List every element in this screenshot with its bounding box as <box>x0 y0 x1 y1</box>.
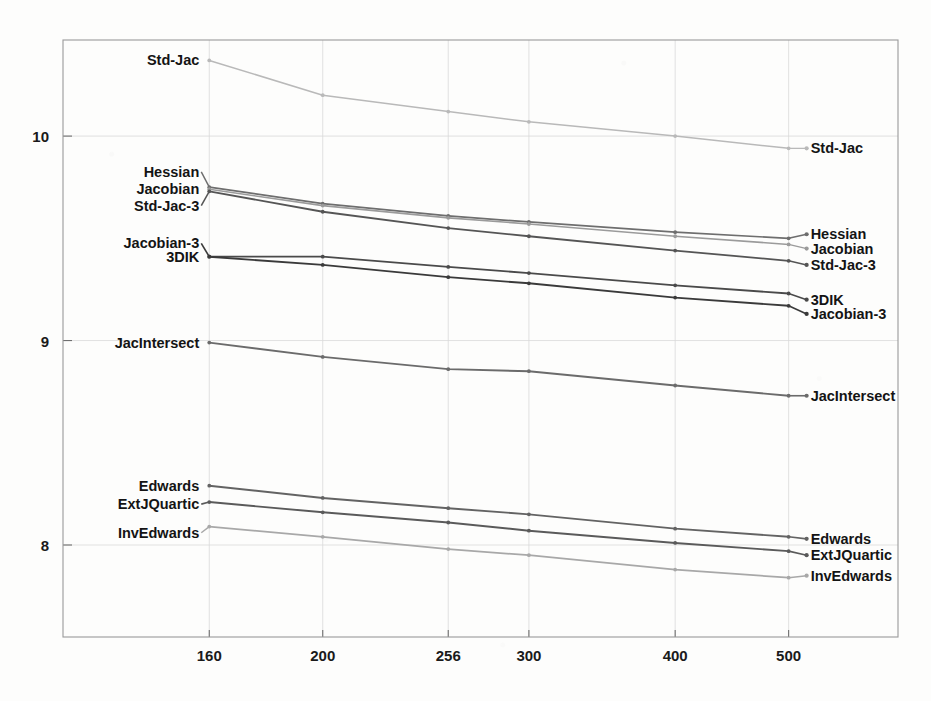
chart-canvas: 160200256300400500 1098 Std-JacHessianJa… <box>0 0 931 701</box>
series-line <box>209 189 788 244</box>
data-point-marker <box>446 110 450 114</box>
line-chart: 160200256300400500 1098 Std-JacHessianJa… <box>0 0 931 701</box>
data-point-marker <box>673 568 677 572</box>
data-point-marker <box>446 367 450 371</box>
x-tick-label: 200 <box>310 647 335 664</box>
series-line <box>209 502 788 551</box>
data-point-marker <box>321 255 325 259</box>
data-point-marker <box>207 484 211 488</box>
series-label-left: Std-Jac <box>147 52 199 68</box>
data-point-marker <box>321 355 325 359</box>
x-tick-label: 160 <box>197 647 222 664</box>
data-point-marker <box>527 234 531 238</box>
data-point-marker <box>446 521 450 525</box>
y-tick-label: 8 <box>41 537 49 554</box>
series-label-right: Jacobian-3 <box>811 306 887 322</box>
series-label-left: Hessian <box>144 164 200 180</box>
right-series-labels: Std-JacHessianJacobianStd-Jac-33DIKJacob… <box>811 140 896 583</box>
data-point-marker <box>446 216 450 220</box>
data-point-marker <box>673 134 677 138</box>
series-label-right: Jacobian <box>811 241 874 257</box>
series-label-right: Std-Jac <box>811 140 863 156</box>
series-label-left: Jacobian-3 <box>124 235 200 251</box>
y-axis-tick-labels: 1098 <box>32 128 49 554</box>
data-point-marker <box>527 553 531 557</box>
series-label-left: InvEdwards <box>118 525 199 541</box>
data-point-marker <box>673 527 677 531</box>
series-curves <box>209 60 788 577</box>
data-point-marker <box>321 93 325 97</box>
data-point-marker <box>527 222 531 226</box>
data-point-marker <box>673 384 677 388</box>
series-label-left: JacIntersect <box>115 335 200 351</box>
data-point-marker <box>527 281 531 285</box>
data-point-marker <box>527 120 531 124</box>
data-point-marker <box>446 265 450 269</box>
data-point-marker <box>446 275 450 279</box>
x-tick-label: 500 <box>776 647 801 664</box>
left-series-labels: Std-JacHessianJacobianStd-Jac-33DIKJacob… <box>115 52 200 540</box>
series-line <box>209 486 788 537</box>
series-label-right: ExtJQuartic <box>811 547 892 563</box>
data-point-marker <box>673 283 677 287</box>
series-line <box>209 187 788 238</box>
data-point-marker <box>321 210 325 214</box>
series-line <box>209 527 788 578</box>
data-point-marker <box>527 369 531 373</box>
y-tick-label: 9 <box>41 333 49 350</box>
data-point-marker <box>321 510 325 514</box>
series-label-left: ExtJQuartic <box>118 496 199 512</box>
data-point-marker <box>673 296 677 300</box>
data-point-marker <box>446 506 450 510</box>
data-point-marker <box>321 535 325 539</box>
data-point-marker <box>673 541 677 545</box>
series-label-left: Jacobian <box>136 181 199 197</box>
series-label-right: JacIntersect <box>811 388 896 404</box>
data-point-marker <box>446 547 450 551</box>
series-label-left: Std-Jac-3 <box>134 198 199 214</box>
series-line <box>209 257 788 306</box>
data-point-marker <box>321 496 325 500</box>
data-point-marker <box>527 271 531 275</box>
x-tick-label: 256 <box>436 647 461 664</box>
series-markers <box>207 59 808 580</box>
data-point-marker <box>673 249 677 253</box>
x-tick-label: 400 <box>663 647 688 664</box>
data-point-marker <box>321 263 325 267</box>
data-point-marker <box>207 341 211 345</box>
series-label-right: Edwards <box>811 531 871 547</box>
series-line <box>209 60 788 148</box>
series-label-right: Std-Jac-3 <box>811 257 876 273</box>
y-tick-label: 10 <box>32 128 49 145</box>
series-line <box>209 343 788 396</box>
data-point-marker <box>527 529 531 533</box>
data-point-marker <box>527 512 531 516</box>
data-point-marker <box>321 204 325 208</box>
series-label-left: Edwards <box>139 478 199 494</box>
data-point-marker <box>673 230 677 234</box>
x-axis-tick-labels: 160200256300400500 <box>197 647 801 664</box>
x-tick-label: 300 <box>516 647 541 664</box>
data-point-marker <box>673 234 677 238</box>
series-label-right: InvEdwards <box>811 568 892 584</box>
data-point-marker <box>446 226 450 230</box>
data-point-marker <box>207 59 211 63</box>
